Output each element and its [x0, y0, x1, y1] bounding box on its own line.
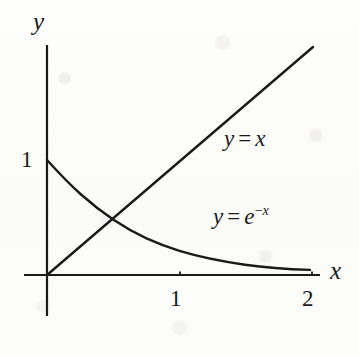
exp-label-base: e — [244, 204, 254, 229]
exp-label-lhs: y — [213, 204, 223, 229]
x-tick-label-2: 2 — [302, 287, 314, 310]
curve-y-equals-exp-neg-x — [47, 160, 310, 270]
x-axis-label: x — [330, 258, 341, 283]
y-axis-label: y — [33, 9, 44, 34]
linear-label-lhs: y — [224, 126, 234, 151]
exp-label-exponent: −x — [254, 202, 268, 218]
linear-label-equals: = — [238, 126, 251, 151]
curve-y-equals-x — [47, 47, 313, 275]
function-plot-figure: y x 1 1 2 y=x y=e−x — [0, 0, 359, 356]
exp-label-exponent-variable: x — [262, 202, 268, 218]
curve-label-linear: y=x — [224, 127, 265, 150]
curve-label-exponential: y=e−x — [213, 203, 269, 228]
y-tick-label-1: 1 — [21, 148, 33, 171]
exp-label-equals: = — [227, 204, 240, 229]
x-tick-label-1: 1 — [170, 287, 182, 310]
linear-label-rhs: x — [255, 126, 265, 151]
